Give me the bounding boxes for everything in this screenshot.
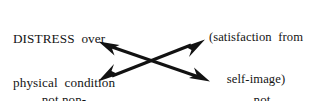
arrow-shaft [112,47,196,76]
label-line: not [222,93,302,101]
semiotic-square-diagram: DISTRESS over physical condition (satisf… [0,0,321,101]
label-not-non-distress: not non- Distress [22,64,106,101]
label-line: not non- [22,93,106,101]
label-line: DISTRESS over [13,32,115,47]
label-line: (satisfaction from [193,30,319,44]
arrow-shaft [112,45,191,76]
label-not-distress: not Distress [222,64,302,101]
